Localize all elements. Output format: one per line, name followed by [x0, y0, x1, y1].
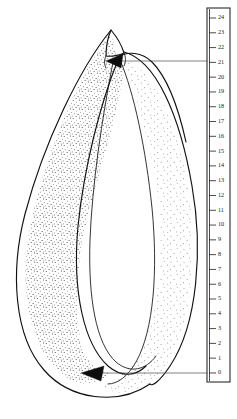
scale-tick-label-18: 18 — [218, 102, 224, 109]
scale-tick-label-7: 7 — [218, 265, 221, 272]
scale-tick-label-15: 15 — [218, 147, 224, 154]
scale-tick-label-6: 6 — [218, 280, 221, 287]
measurement-scale: 2423222120191817161514131211109876543210 — [207, 8, 230, 382]
scale-tick-label-23: 23 — [218, 28, 224, 35]
scale-tick-label-16: 16 — [218, 132, 224, 139]
scale-tick-label-12: 12 — [218, 191, 224, 198]
scale-tick-label-0: 0 — [218, 368, 221, 375]
scale-tick-label-5: 5 — [218, 294, 221, 301]
scale-tick-label-2: 2 — [218, 339, 221, 346]
scale-tick-label-4: 4 — [218, 309, 221, 316]
scale-tick-label-19: 19 — [218, 87, 224, 94]
figure-root: 2423222120191817161514131211109876543210… — [0, 0, 237, 419]
scale-tick-label-22: 22 — [218, 43, 224, 50]
scale-tick-label-11: 11 — [218, 206, 224, 213]
scale-tick-label-1: 1 — [218, 354, 221, 361]
scale-tick-label-13: 13 — [218, 176, 224, 183]
scale-tick-label-9: 9 — [218, 235, 221, 242]
scale-tick-label-20: 20 — [218, 73, 224, 80]
scientific-line-drawing: 2423222120191817161514131211109876543210 — [0, 0, 237, 419]
scale-tick-label-3: 3 — [218, 324, 221, 331]
scale-tick-label-8: 8 — [218, 250, 221, 257]
scale-tick-label-17: 17 — [218, 117, 224, 124]
scale-tick-label-14: 14 — [218, 161, 224, 168]
scale-tick-label-21: 21 — [218, 58, 224, 65]
scale-tick-label-10: 10 — [218, 220, 224, 227]
scale-tick-label-24: 24 — [218, 13, 224, 20]
